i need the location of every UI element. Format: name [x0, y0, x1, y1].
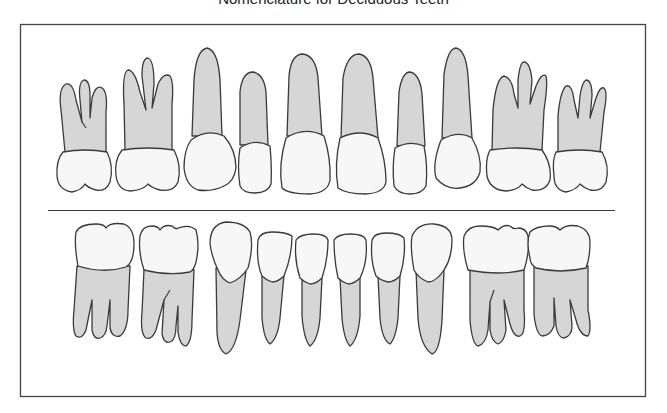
upper-central-incisor-right: [336, 54, 386, 194]
lower-canine-right: [411, 224, 452, 354]
upper-first-molar-right: [486, 62, 550, 191]
dental-diagram: [0, 0, 667, 413]
upper-arch: [57, 48, 607, 194]
lower-second-molar-left: [73, 224, 134, 339]
upper-first-molar-left: [116, 58, 180, 191]
lower-central-incisor-right: [334, 234, 366, 346]
lower-arch: [73, 222, 590, 354]
lower-lateral-incisor-left: [258, 232, 293, 344]
lower-canine-left: [210, 222, 252, 354]
lower-first-molar-right: [464, 226, 529, 347]
upper-second-molar-right: [553, 80, 607, 192]
lower-first-molar-left: [140, 226, 199, 347]
upper-lateral-incisor-left: [239, 72, 272, 193]
upper-canine-right: [435, 48, 481, 188]
lower-second-molar-right: [528, 226, 590, 339]
upper-central-incisor-left: [281, 54, 330, 194]
upper-second-molar-left: [57, 80, 112, 192]
upper-canine-left: [184, 48, 236, 191]
lower-central-incisor-left: [296, 234, 329, 346]
upper-lateral-incisor-right: [393, 72, 426, 194]
lower-lateral-incisor-right: [372, 233, 405, 344]
